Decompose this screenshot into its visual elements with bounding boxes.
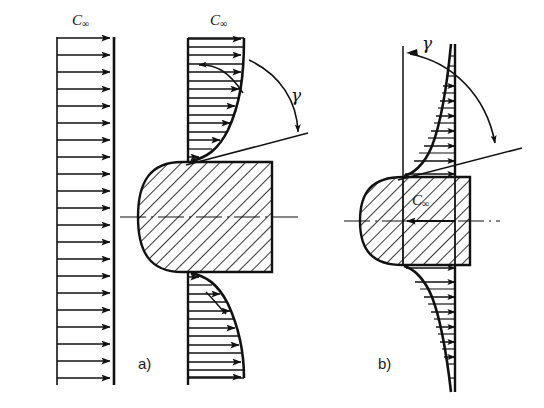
panel-a-thick-boundary-layer — [120, 38, 308, 385]
profile-b-upper-envelope — [404, 44, 451, 176]
panel-left-uniform-profile — [57, 37, 114, 385]
profile-b-lower-envelope — [404, 266, 451, 392]
left-panel-velocity-arrows — [57, 38, 110, 378]
profile-a-upper-envelope — [191, 38, 244, 161]
profile-b-lower-rungs — [420, 289, 455, 378]
figure-canvas: C∞ C∞ C∞ γ γ a) b) — [0, 0, 544, 408]
profile-b-upper-arrows — [405, 86, 455, 174]
boundary-layer-diagram — [0, 0, 544, 408]
panel-b-thin-boundary-layer — [344, 44, 522, 392]
panel-caption-b: b) — [378, 355, 391, 372]
infinity-subscript-body-b: ∞ — [422, 198, 429, 209]
c-infinity-label-body-b: C∞ — [412, 192, 429, 209]
c-infinity-label-panel-a: C∞ — [210, 12, 227, 29]
profile-a-upper-rungs — [188, 47, 244, 149]
infinity-subscript-left: ∞ — [82, 18, 89, 29]
shear-tangent-line-b — [398, 148, 522, 180]
gamma-arc-b — [410, 54, 495, 143]
gamma-label-b: γ — [422, 33, 432, 53]
infinity-subscript-mid: ∞ — [220, 18, 227, 29]
profile-a-lower-arrows — [188, 277, 241, 377]
panel-caption-a: a) — [138, 355, 151, 372]
profile-b-lower-arrows — [406, 268, 455, 357]
c-infinity-label-left: C∞ — [72, 12, 89, 29]
gamma-label-a: γ — [291, 85, 301, 105]
